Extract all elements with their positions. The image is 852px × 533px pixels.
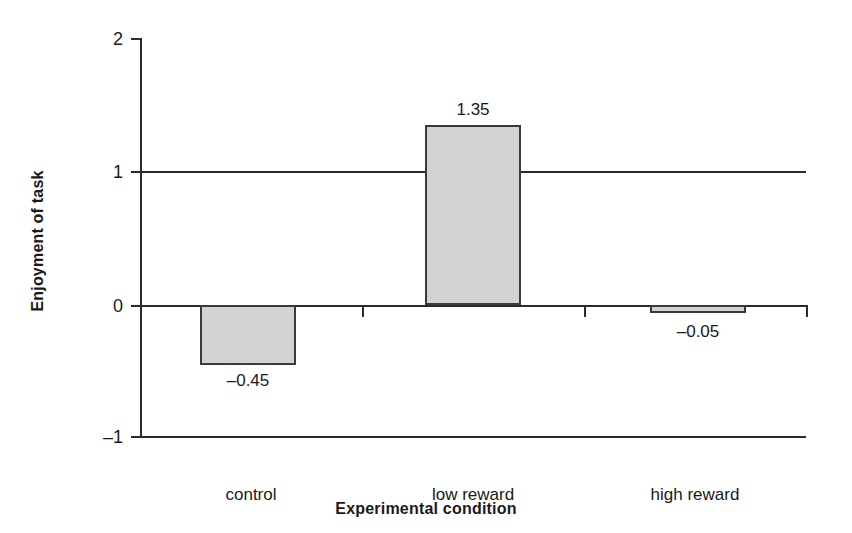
plot-area: 2 1 0 –1 –0.45 1.35 –0.05 control low re… bbox=[140, 38, 808, 437]
bar-low-reward[interactable] bbox=[425, 125, 521, 305]
y-tick-mark-2: 2 bbox=[131, 38, 140, 40]
category-tick-0 bbox=[140, 307, 142, 317]
y-axis-title: Enjoyment of task bbox=[29, 141, 47, 341]
y-tick-label-minus-1: –1 bbox=[103, 428, 123, 446]
gridline-y-minus-1 bbox=[140, 436, 806, 438]
bar-value-control: –0.45 bbox=[227, 372, 270, 389]
category-tick-1 bbox=[362, 307, 364, 317]
y-tick-mark-1: 1 bbox=[131, 171, 140, 173]
y-tick-label-0: 0 bbox=[113, 297, 123, 315]
bar-high-reward[interactable] bbox=[650, 305, 746, 313]
y-tick-mark-0: 0 bbox=[131, 305, 140, 307]
bar-value-high-reward: –0.05 bbox=[677, 323, 720, 340]
bar-control[interactable] bbox=[200, 305, 296, 365]
y-axis-spine bbox=[140, 38, 142, 437]
x-axis-title: Experimental condition bbox=[0, 500, 852, 518]
y-tick-label-2: 2 bbox=[113, 30, 123, 48]
y-tick-mark-minus-1: –1 bbox=[131, 436, 140, 438]
bar-value-low-reward: 1.35 bbox=[456, 101, 489, 118]
y-tick-label-1: 1 bbox=[113, 163, 123, 181]
category-tick-2 bbox=[584, 307, 586, 317]
bar-chart-figure: Enjoyment of task 2 1 0 –1 –0.45 bbox=[0, 0, 852, 533]
category-tick-3 bbox=[806, 307, 808, 317]
